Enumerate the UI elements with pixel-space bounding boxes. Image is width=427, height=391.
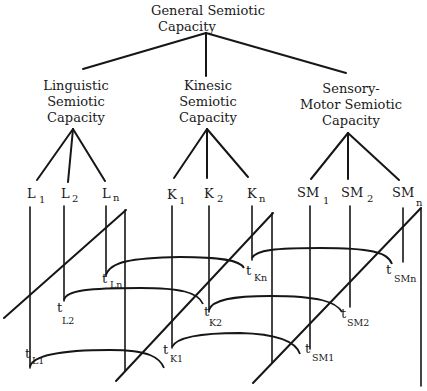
node-K1-sub: 1 <box>179 195 185 206</box>
linguistic-subtree-edges <box>37 129 105 182</box>
time-L2: t <box>57 300 62 315</box>
time-SM1: t <box>305 341 310 356</box>
time-L2-sub: L2 <box>62 315 74 326</box>
node-K1: K <box>167 187 177 202</box>
node-L1-sub: 1 <box>39 194 45 205</box>
root-label-line1: General Semiotic <box>148 3 268 19</box>
time-SM1-sub: SM1 <box>312 352 334 363</box>
time-arcs <box>30 248 392 368</box>
sensory-motor-label-line3: Capacity <box>298 113 404 129</box>
node-SM2-sub: 2 <box>367 193 373 204</box>
time-L1-sub: L1 <box>32 355 44 366</box>
root-label-line2: Capacity <box>148 19 268 35</box>
node-L2: L <box>61 186 70 201</box>
top-tree-edges <box>83 33 346 76</box>
kinesic-subtree-edges <box>174 129 248 178</box>
time-Ln-sub: Ln <box>110 279 122 290</box>
node-SMn: SM <box>392 185 414 200</box>
time-Kn: t <box>246 263 251 278</box>
kinesic-label-line1: Kinesic <box>168 78 248 94</box>
root-label: General Semiotic Capacity <box>148 3 268 35</box>
node-SM2: SM <box>341 185 363 200</box>
node-SM1: SM <box>297 185 319 200</box>
node-Kn-sub: n <box>259 193 265 204</box>
sensory-motor-subtree-edges <box>311 133 399 180</box>
time-K1-sub: K1 <box>170 353 183 364</box>
linguistic-label-line1: Linguistic <box>30 78 122 94</box>
time-SMn-sub: SMn <box>394 273 416 284</box>
node-K2-sub: 2 <box>217 193 223 204</box>
time-K2-sub: K2 <box>209 317 222 328</box>
time-Ln: t <box>102 271 107 286</box>
time-SM2: t <box>341 306 346 321</box>
node-L2-sub: 2 <box>72 193 78 204</box>
node-timelines <box>30 206 403 368</box>
time-Kn-sub: Kn <box>254 272 267 283</box>
node-SM1-sub: 1 <box>323 195 329 206</box>
sensory-motor-label-line2: Motor Semiotic <box>298 97 404 113</box>
time-L1: t <box>25 346 30 361</box>
node-Ln-sub: n <box>113 192 119 203</box>
linguistic-label-line2: Semiotic <box>30 94 122 110</box>
time-SMn: t <box>386 262 391 277</box>
kinesic-label: Kinesic Semiotic Capacity <box>168 78 248 126</box>
time-SM2-sub: SM2 <box>347 317 369 328</box>
sensory-motor-plane <box>253 208 421 386</box>
node-L1: L <box>27 186 36 201</box>
kinesic-label-line3: Capacity <box>168 110 248 126</box>
linguistic-plane <box>4 210 126 371</box>
kinesic-label-line2: Semiotic <box>168 94 248 110</box>
node-SMn-sub: n <box>416 197 422 208</box>
time-K1: t <box>163 342 168 357</box>
node-Ln: L <box>102 186 111 201</box>
linguistic-label-line3: Capacity <box>30 110 122 126</box>
linguistic-label: Linguistic Semiotic Capacity <box>30 78 122 126</box>
node-Kn: K <box>247 186 257 201</box>
sensory-motor-label: Sensory- Motor Semiotic Capacity <box>298 81 404 129</box>
sensory-motor-label-line1: Sensory- <box>298 81 404 97</box>
node-K2: K <box>204 186 214 201</box>
